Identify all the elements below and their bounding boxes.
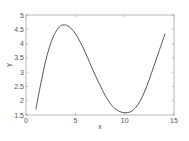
y-tick-label: 4 [20, 40, 24, 47]
y-tick-label: 2.5 [14, 83, 24, 90]
y-tick-label: 5 [20, 12, 24, 19]
y-tick-label: 1.5 [14, 112, 24, 119]
y-tick-labels: 1.522.533.544.55 [14, 12, 24, 119]
y-tick-label: 3.5 [14, 54, 24, 61]
x-tick-label: 0 [24, 117, 28, 124]
x-tick-label: 15 [170, 117, 178, 124]
y-tick-label: 4.5 [14, 26, 24, 33]
y-tick-label: 3 [20, 69, 24, 76]
x-tick-label: 10 [121, 117, 129, 124]
plot-area [26, 15, 174, 115]
x-axis-label: x [98, 123, 102, 130]
y-tick-label: 2 [20, 97, 24, 104]
y-axis-label: y [5, 63, 13, 67]
x-tick-label: 5 [73, 117, 77, 124]
line-chart: 051015 1.522.533.544.55 x y [0, 0, 189, 141]
